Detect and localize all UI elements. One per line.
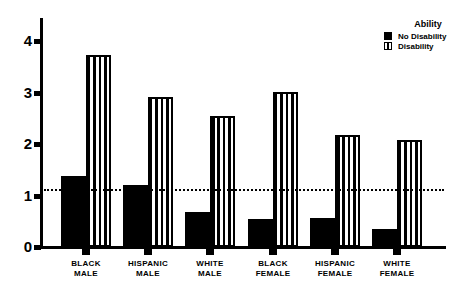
bar-disability bbox=[273, 92, 298, 247]
x-label-line: Male bbox=[178, 269, 242, 279]
legend-title: Ability bbox=[392, 19, 464, 29]
legend: Ability No Disability Disability bbox=[384, 19, 464, 51]
x-tick-label: WhiteMale bbox=[178, 259, 242, 279]
x-tick-label: HispanicMale bbox=[116, 259, 180, 279]
solid-swatch-icon bbox=[384, 32, 392, 40]
x-tick bbox=[144, 248, 152, 255]
x-label-line: White bbox=[178, 259, 242, 269]
bar-disability bbox=[397, 140, 422, 247]
x-tick-label: HispanicFemale bbox=[303, 259, 367, 279]
x-label-line: Hispanic bbox=[303, 259, 367, 269]
bar-no-disability bbox=[61, 176, 86, 247]
x-label-line: Black bbox=[54, 259, 118, 269]
x-tick bbox=[206, 248, 214, 255]
legend-label: Disability bbox=[398, 42, 434, 51]
x-tick bbox=[269, 248, 277, 255]
bar-no-disability bbox=[372, 229, 397, 247]
bar-chart: Ability No Disability Disability 01234Bl… bbox=[0, 0, 467, 294]
y-tick-label: 0 bbox=[20, 239, 32, 255]
reference-line-dotted bbox=[44, 189, 444, 191]
bar-no-disability bbox=[248, 219, 273, 247]
bar-disability bbox=[148, 97, 173, 247]
legend-item-disability: Disability bbox=[384, 41, 464, 51]
x-label-line: Female bbox=[303, 269, 367, 279]
bar-no-disability bbox=[185, 212, 210, 247]
x-label-line: White bbox=[365, 259, 429, 269]
bar-no-disability bbox=[310, 218, 335, 247]
y-axis bbox=[40, 18, 43, 249]
legend-item-no-disability: No Disability bbox=[384, 31, 464, 41]
x-label-line: Male bbox=[54, 269, 118, 279]
x-tick bbox=[393, 248, 401, 255]
x-tick-label: BlackMale bbox=[54, 259, 118, 279]
y-tick bbox=[34, 39, 41, 44]
legend-label: No Disability bbox=[398, 32, 446, 41]
x-label-line: Male bbox=[116, 269, 180, 279]
striped-swatch-icon bbox=[384, 42, 392, 50]
x-tick bbox=[331, 248, 339, 255]
x-label-line: Black bbox=[241, 259, 305, 269]
x-tick-label: BlackFemale bbox=[241, 259, 305, 279]
bar-disability bbox=[86, 55, 111, 247]
y-tick bbox=[34, 91, 41, 96]
x-label-line: Female bbox=[365, 269, 429, 279]
y-tick-label: 3 bbox=[20, 85, 32, 101]
y-tick-label: 4 bbox=[20, 33, 32, 49]
bar-disability bbox=[210, 116, 235, 247]
y-tick-label: 2 bbox=[20, 136, 32, 152]
y-tick bbox=[34, 245, 41, 250]
y-tick-label: 1 bbox=[20, 188, 32, 204]
bar-no-disability bbox=[123, 185, 148, 247]
y-tick bbox=[34, 194, 41, 199]
x-tick bbox=[82, 248, 90, 255]
x-tick-label: WhiteFemale bbox=[365, 259, 429, 279]
x-label-line: Hispanic bbox=[116, 259, 180, 269]
x-label-line: Female bbox=[241, 269, 305, 279]
y-tick bbox=[34, 142, 41, 147]
